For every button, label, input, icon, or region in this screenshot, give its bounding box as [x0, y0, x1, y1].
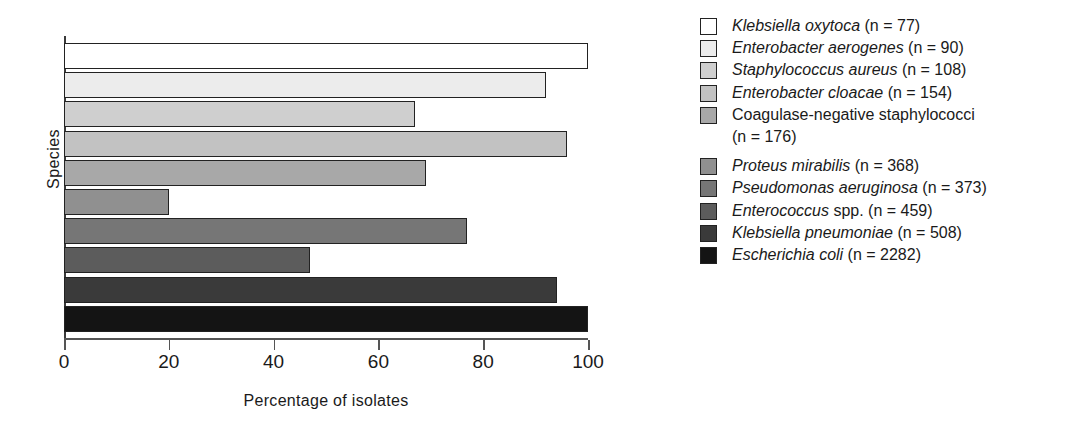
- legend-species-italic: Klebsiella pneumoniae: [732, 224, 893, 241]
- x-tick-label: 80: [473, 351, 494, 373]
- legend-item: Proteus mirabilis (n = 368): [700, 156, 1080, 175]
- x-tick: [483, 340, 485, 350]
- x-tick-label: 60: [368, 351, 389, 373]
- legend-swatch: [700, 62, 717, 79]
- x-axis-title: Percentage of isolates: [64, 392, 588, 410]
- legend-label: Enterococcus spp. (n = 459): [732, 201, 933, 220]
- bar-row: [64, 100, 588, 129]
- legend-spacer: [700, 149, 1080, 156]
- x-tick: [169, 340, 171, 350]
- bar: [64, 131, 567, 157]
- legend-count: (n = 373): [918, 179, 987, 196]
- bar-row: [64, 130, 588, 159]
- legend-count: (n = 459): [864, 202, 933, 219]
- legend-count: (n = 77): [860, 17, 920, 34]
- bars-container: [64, 42, 588, 334]
- legend-label: Klebsiella pneumoniae (n = 508): [732, 223, 962, 242]
- bar: [64, 101, 415, 127]
- legend-item: Enterobacter cloacae (n = 154): [700, 83, 1080, 102]
- bar-row: [64, 71, 588, 100]
- bar-row: [64, 276, 588, 305]
- x-tick-label: 0: [59, 351, 70, 373]
- legend-species-italic: Enterobacter aerogenes: [732, 39, 904, 56]
- y-axis-title: Species: [45, 99, 63, 219]
- legend-swatch: [700, 18, 717, 35]
- x-tick: [588, 340, 590, 350]
- x-tick-label: 100: [572, 351, 604, 373]
- bar: [64, 306, 588, 332]
- legend-swatch: [700, 203, 717, 220]
- legend-species-italic: Klebsiella oxytoca: [732, 17, 860, 34]
- legend-swatch: [700, 85, 717, 102]
- legend-item: Escherichia coli (n = 2282): [700, 245, 1080, 264]
- x-tick: [378, 340, 380, 350]
- legend-count: (n = 154): [883, 84, 952, 101]
- bar-row: [64, 217, 588, 246]
- bar-row: [64, 246, 588, 275]
- legend-label: Escherichia coli (n = 2282): [732, 245, 921, 264]
- legend-species-italic: Staphylococcus aureus: [732, 61, 897, 78]
- x-tick: [64, 340, 66, 350]
- legend-species-roman: spp.: [829, 202, 864, 219]
- legend-count: (n = 508): [893, 224, 962, 241]
- x-tick-label: 20: [158, 351, 179, 373]
- bar-chart-figure: Species 020406080100 Percentage of isola…: [0, 0, 1087, 445]
- x-axis-tick-labels: 020406080100: [0, 351, 690, 377]
- bar: [64, 160, 426, 186]
- legend-label: Coagulase-negative staphylococci: [732, 105, 975, 124]
- bar: [64, 189, 169, 215]
- legend-item: Klebsiella oxytoca (n = 77): [700, 16, 1080, 35]
- legend-count: (n = 2282): [843, 246, 921, 263]
- legend-count: (n = 108): [897, 61, 966, 78]
- legend-count: (n = 368): [850, 157, 919, 174]
- legend-swatch: [700, 158, 717, 175]
- x-tick-label: 40: [263, 351, 284, 373]
- legend-swatch: [700, 225, 717, 242]
- legend-swatch: [700, 180, 717, 197]
- bar: [64, 247, 310, 273]
- legend-species-roman: Coagulase-negative staphylococci: [732, 106, 975, 123]
- legend-label: Enterobacter cloacae (n = 154): [732, 83, 952, 102]
- legend-label: Klebsiella oxytoca (n = 77): [732, 16, 920, 35]
- bar-row: [64, 159, 588, 188]
- legend: Klebsiella oxytoca (n = 77)Enterobacter …: [700, 16, 1080, 267]
- x-axis-ticks: [64, 340, 588, 350]
- bar-row: [64, 188, 588, 217]
- legend-label: Pseudomonas aeruginosa (n = 373): [732, 178, 987, 197]
- legend-species-italic: Enterobacter cloacae: [732, 84, 883, 101]
- bar: [64, 72, 546, 98]
- bar-row: [64, 305, 588, 334]
- legend-item: Coagulase-negative staphylococci: [700, 105, 1080, 124]
- legend-label: Staphylococcus aureus (n = 108): [732, 60, 966, 79]
- bar-row: [64, 42, 588, 71]
- legend-swatch: [700, 40, 717, 57]
- plot-area: Species 020406080100 Percentage of isola…: [0, 0, 690, 445]
- x-tick: [274, 340, 276, 350]
- legend-label: Enterobacter aerogenes (n = 90): [732, 38, 964, 57]
- legend-species-italic: Proteus mirabilis: [732, 157, 850, 174]
- legend-species-italic: Enterococcus: [732, 202, 829, 219]
- legend-item: Pseudomonas aeruginosa (n = 373): [700, 178, 1080, 197]
- legend-item: Staphylococcus aureus (n = 108): [700, 60, 1080, 79]
- legend-count: (n = 90): [904, 39, 964, 56]
- legend-species-italic: Escherichia coli: [732, 246, 843, 263]
- legend-item: Enterococcus spp. (n = 459): [700, 201, 1080, 220]
- legend-item: Klebsiella pneumoniae (n = 508): [700, 223, 1080, 242]
- bar: [64, 277, 557, 303]
- legend-swatch: [700, 107, 717, 124]
- legend-label-continuation: (n = 176): [732, 127, 1080, 146]
- legend-label: Proteus mirabilis (n = 368): [732, 156, 919, 175]
- legend-item: Enterobacter aerogenes (n = 90): [700, 38, 1080, 57]
- bar: [64, 218, 467, 244]
- legend-swatch: [700, 247, 717, 264]
- bar: [64, 43, 588, 69]
- legend-species-italic: Pseudomonas aeruginosa: [732, 179, 918, 196]
